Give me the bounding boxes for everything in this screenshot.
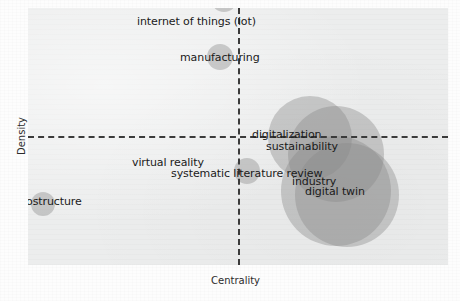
- node-label-sustainability: sustainability: [266, 141, 338, 153]
- node-label-digital-twin: digital twin: [305, 186, 365, 198]
- y-axis-title: Density: [16, 117, 27, 155]
- node-label-internet-of-things: internet of things (iot): [137, 16, 256, 28]
- quadrant-divider-horizontal: [28, 136, 448, 138]
- node-label-manufacturing: manufacturing: [180, 52, 260, 64]
- plot-area: internet of things (iot) manufacturing d…: [28, 8, 448, 265]
- node-label-infrastructure: ostructure: [28, 196, 82, 208]
- bubble-internet-of-things[interactable]: [211, 8, 237, 12]
- x-axis-title: Centrality: [211, 275, 260, 286]
- strategic-diagram-figure: internet of things (iot) manufacturing d…: [0, 0, 460, 301]
